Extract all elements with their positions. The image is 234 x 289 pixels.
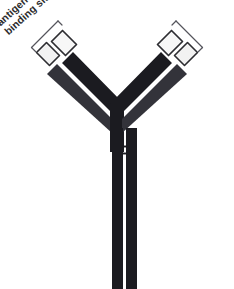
- stem: [112, 128, 137, 289]
- stem-right-bar: [126, 128, 137, 289]
- antibody-svg: [0, 0, 234, 289]
- antibody-diagram: antigen binding site antigen binding sit…: [0, 0, 234, 289]
- stem-left-bar: [112, 128, 123, 289]
